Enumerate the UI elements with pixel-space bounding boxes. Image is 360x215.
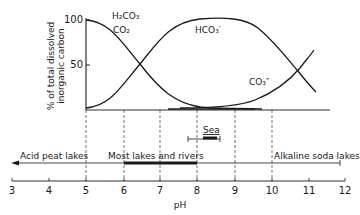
- x-tick-labels: 3 4 5 6 7 8 9 10 11 12: [9, 185, 352, 196]
- x-tick-10: 10: [266, 185, 279, 196]
- y-axis-label-line2: inorganic carbon: [56, 28, 66, 104]
- x-tick-11: 11: [303, 185, 316, 196]
- x-tick-4: 4: [46, 185, 52, 196]
- label-sea: Sea: [203, 125, 220, 135]
- x-tick-5: 5: [83, 185, 89, 196]
- x-tick-8: 8: [194, 185, 200, 196]
- label-hco3: HCO₃′: [195, 25, 221, 35]
- x-tick-9: 9: [232, 185, 238, 196]
- x-axis-label: pH: [174, 200, 186, 210]
- x-tick-12: 12: [339, 185, 352, 196]
- label-alkaline-soda-lakes: Alkaline soda lakes: [274, 151, 360, 161]
- label-h2co3: H₂CO₃: [112, 11, 140, 21]
- left-arrow-icon: [11, 161, 19, 166]
- label-acid-peat-lakes: Acid peat lakes: [20, 151, 89, 161]
- x-tick-3: 3: [9, 185, 15, 196]
- y-tick-label-100: 100: [64, 14, 83, 25]
- label-most-lakes-rivers: Most lakes and rivers: [108, 151, 204, 161]
- curve-co3: [180, 50, 314, 108]
- y-axis-label-line1: % of total dissolved: [46, 22, 56, 111]
- carbonate-speciation-diagram: 100 50 % of total dissolved inorganic ca…: [0, 0, 360, 215]
- label-co3: CO₃″: [249, 77, 270, 87]
- x-tick-6: 6: [121, 185, 127, 196]
- label-co2: CO₂: [113, 25, 130, 35]
- x-tick-7: 7: [157, 185, 163, 196]
- dashed-reference-lines: [86, 110, 272, 181]
- y-tick-label-50: 50: [70, 59, 83, 70]
